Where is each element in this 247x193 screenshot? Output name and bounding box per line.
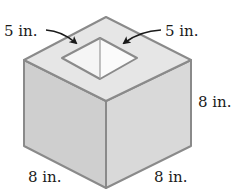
label-front-left-edge: 8 in. xyxy=(28,168,62,186)
cube-with-cavity-diagram: 5 in. 5 in. 8 in. 8 in. 8 in. xyxy=(0,0,247,193)
label-cavity-right: 5 in. xyxy=(165,22,199,40)
label-front-right-edge: 8 in. xyxy=(154,168,188,186)
label-cube-height: 8 in. xyxy=(198,93,232,111)
label-cavity-left: 5 in. xyxy=(4,22,38,40)
